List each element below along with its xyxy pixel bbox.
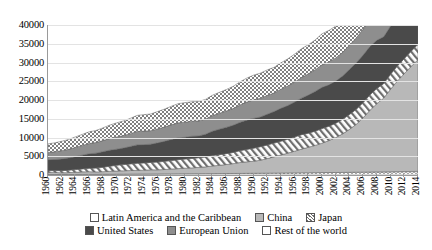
- legend-row-2: United StatesEuropean UnionRest of the w…: [0, 224, 432, 237]
- x-axis-tick-label: 2002: [330, 177, 340, 195]
- y-axis-labels: 0500010000150002000025000300003500040000: [0, 0, 44, 200]
- legend-row-1: Latin America and the CaribbeanChinaJapa…: [0, 211, 432, 224]
- gridline: [48, 25, 418, 26]
- x-axis-tick-label: 1980: [179, 177, 189, 195]
- x-axis-labels: 1960196219641966196819701972197419761978…: [47, 177, 417, 211]
- legend-swatch-icon: [85, 226, 94, 235]
- gridline: [48, 63, 418, 64]
- x-axis-tick-label: 2014: [412, 177, 422, 195]
- gridline: [48, 119, 418, 120]
- x-axis-tick-label: 1968: [97, 177, 107, 195]
- legend-label: United States: [97, 224, 153, 237]
- x-axis-tick-label: 1998: [302, 177, 312, 195]
- x-axis-tick-label: 1970: [111, 177, 121, 195]
- legend-item-latin-america[interactable]: Latin America and the Caribbean: [90, 211, 241, 224]
- x-axis-tick-label: 1962: [56, 177, 66, 195]
- y-axis-tick-label: 5000: [0, 151, 44, 161]
- gridline: [48, 44, 418, 45]
- legend-item-japan[interactable]: Japan: [306, 211, 342, 224]
- x-axis-tick-label: 1994: [275, 177, 285, 195]
- y-axis-tick-label: 20000: [0, 95, 44, 105]
- x-axis-tick-label: 1960: [42, 177, 52, 195]
- legend-label: Latin America and the Caribbean: [102, 211, 241, 224]
- legend-swatch-icon: [306, 213, 315, 222]
- y-axis-tick-label: 0: [0, 170, 44, 180]
- legend-label: China: [267, 211, 292, 224]
- legend-swatch-icon: [167, 226, 176, 235]
- chart-legend: Latin America and the CaribbeanChinaJapa…: [0, 211, 432, 237]
- legend-item-united-states[interactable]: United States: [85, 224, 153, 237]
- x-axis-tick-label: 1966: [83, 177, 93, 195]
- x-axis-tick-label: 2004: [343, 177, 353, 195]
- x-axis-tick-label: 1988: [234, 177, 244, 195]
- x-axis-tick-label: 1986: [220, 177, 230, 195]
- y-axis-tick-label: 10000: [0, 133, 44, 143]
- x-axis-tick-label: 1974: [138, 177, 148, 195]
- x-axis-tick-label: 1972: [124, 177, 134, 195]
- y-axis-tick-label: 40000: [0, 20, 44, 30]
- legend-item-rest-of-world[interactable]: Rest of the world: [262, 224, 347, 237]
- gridline: [48, 100, 418, 101]
- gridline: [48, 156, 418, 157]
- legend-label: European Union: [179, 224, 248, 237]
- y-axis-tick-label: 35000: [0, 39, 44, 49]
- x-axis-tick-label: 1984: [206, 177, 216, 195]
- gridline: [48, 81, 418, 82]
- x-axis-tick-label: 1990: [248, 177, 258, 195]
- legend-swatch-icon: [90, 213, 99, 222]
- x-axis-tick-label: 1976: [152, 177, 162, 195]
- x-axis-tick-label: 1978: [165, 177, 175, 195]
- chart-root: 0500010000150002000025000300003500040000: [0, 0, 432, 250]
- x-axis-tick-label: 1964: [69, 177, 79, 195]
- x-axis-tick-label: 2000: [316, 177, 326, 195]
- legend-item-china[interactable]: China: [255, 211, 292, 224]
- legend-label: Rest of the world: [274, 224, 347, 237]
- x-axis-tick-label: 2006: [357, 177, 367, 195]
- y-axis-tick-label: 30000: [0, 58, 44, 68]
- x-axis-tick-label: 1996: [289, 177, 299, 195]
- y-axis-tick-label: 25000: [0, 76, 44, 86]
- x-axis-tick-label: 1982: [193, 177, 203, 195]
- plot-area: [47, 25, 418, 176]
- y-axis-tick-label: 15000: [0, 114, 44, 124]
- gridline: [48, 138, 418, 139]
- x-axis-tick-label: 2010: [385, 177, 395, 195]
- x-axis-tick-label: 1992: [261, 177, 271, 195]
- legend-swatch-icon: [262, 226, 271, 235]
- legend-label: Japan: [318, 211, 342, 224]
- x-axis-tick-label: 2008: [371, 177, 381, 195]
- x-axis-tick-label: 2012: [398, 177, 408, 195]
- legend-item-european-union[interactable]: European Union: [167, 224, 248, 237]
- legend-swatch-icon: [255, 213, 264, 222]
